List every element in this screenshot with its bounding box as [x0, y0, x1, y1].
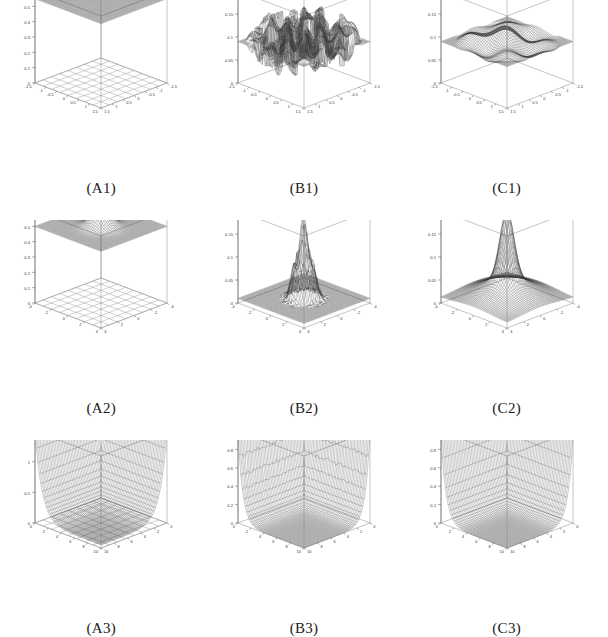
panel-caption-c2: (C2) — [492, 400, 521, 417]
svg-text:-1: -1 — [565, 88, 568, 93]
surface-plot-b1: 00.050.10.150.2-1.5-1-0.500.511.5-1.5-1-… — [203, 0, 406, 176]
panel-a2: 00.10.20.30.40.50.6-4-2024-4-2024 (A2) — [0, 220, 203, 440]
svg-text:-0.5: -0.5 — [149, 92, 156, 97]
panel-c3: 00.20.40.60.8102468100246810 (C3) — [405, 440, 608, 637]
svg-text:0.1: 0.1 — [430, 35, 436, 40]
svg-text:-0.5: -0.5 — [250, 92, 257, 97]
svg-text:10: 10 — [94, 549, 99, 554]
svg-text:2: 2 — [448, 529, 450, 534]
svg-text:0.5: 0.5 — [273, 100, 278, 105]
svg-text:4: 4 — [56, 534, 59, 539]
svg-text:2: 2 — [485, 322, 487, 327]
svg-text:0: 0 — [138, 96, 141, 101]
svg-text:2: 2 — [360, 529, 362, 534]
svg-text:0.4: 0.4 — [227, 484, 233, 489]
svg-text:-1.5: -1.5 — [431, 84, 438, 89]
svg-text:1.5: 1.5 — [498, 109, 503, 114]
surface-plot-c3: 00.20.40.60.8102468100246810 — [405, 440, 608, 616]
panel-caption-b1: (B1) — [290, 180, 319, 197]
svg-text:10: 10 — [296, 549, 301, 554]
svg-text:-1: -1 — [445, 88, 448, 93]
svg-text:4: 4 — [510, 329, 513, 334]
svg-text:0: 0 — [266, 96, 269, 101]
svg-text:8: 8 — [320, 544, 322, 549]
svg-text:0: 0 — [63, 316, 66, 321]
svg-text:0: 0 — [468, 96, 471, 101]
svg-text:4: 4 — [307, 329, 310, 334]
svg-text:0: 0 — [138, 316, 141, 321]
svg-text:1: 1 — [116, 104, 118, 109]
panel-caption-c1: (C1) — [492, 180, 521, 197]
panel-b3: 00.20.40.60.8102468100246810 (B3) — [203, 440, 406, 637]
svg-text:4: 4 — [299, 329, 302, 334]
svg-text:0.4: 0.4 — [25, 20, 31, 25]
svg-text:-0.5: -0.5 — [351, 92, 358, 97]
svg-text:-1.5: -1.5 — [576, 84, 583, 89]
svg-text:0: 0 — [435, 524, 438, 529]
svg-text:4: 4 — [462, 534, 465, 539]
svg-text:0: 0 — [373, 524, 376, 529]
svg-text:1: 1 — [28, 460, 31, 465]
svg-text:0.2: 0.2 — [227, 503, 233, 508]
svg-text:-4: -4 — [434, 304, 438, 309]
svg-text:1: 1 — [521, 104, 523, 109]
surface-plot-a2: 00.10.20.30.40.50.6-4-2024-4-2024 — [0, 220, 203, 396]
svg-text:0: 0 — [543, 316, 546, 321]
svg-text:0.8: 0.8 — [430, 448, 436, 453]
svg-text:1.5: 1.5 — [105, 109, 110, 114]
svg-text:4: 4 — [105, 329, 108, 334]
svg-text:0: 0 — [543, 96, 546, 101]
svg-text:-0.5: -0.5 — [554, 92, 561, 97]
svg-text:6: 6 — [272, 539, 274, 544]
svg-text:-1: -1 — [362, 88, 365, 93]
surface-plot-c1: 00.050.10.150.2-1.5-1-0.500.511.5-1.5-1-… — [405, 0, 608, 176]
svg-text:0.1: 0.1 — [25, 286, 31, 291]
svg-text:1: 1 — [318, 104, 320, 109]
svg-text:0.05: 0.05 — [225, 58, 234, 63]
svg-text:0.6: 0.6 — [430, 466, 436, 471]
svg-text:0.15: 0.15 — [428, 232, 437, 237]
surface-plot-c2: 00.050.10.150.2-4-2024-4-2024 — [405, 220, 608, 396]
panel-c1: 00.050.10.150.2-1.5-1-0.500.511.5-1.5-1-… — [405, 0, 608, 220]
svg-text:2: 2 — [157, 529, 159, 534]
panel-caption-a1: (A1) — [87, 180, 117, 197]
svg-text:0.5: 0.5 — [25, 491, 31, 496]
svg-text:0.2: 0.2 — [25, 51, 31, 56]
svg-text:-1.5: -1.5 — [171, 84, 178, 89]
panel-b2: 00.050.10.150.2-4-2024-4-2024 (B2) — [203, 220, 406, 440]
svg-text:0.4: 0.4 — [25, 240, 31, 245]
svg-text:6: 6 — [475, 539, 477, 544]
svg-text:6: 6 — [536, 539, 538, 544]
svg-text:2: 2 — [79, 322, 81, 327]
svg-text:10: 10 — [307, 549, 312, 554]
svg-text:1: 1 — [85, 104, 87, 109]
svg-text:0.3: 0.3 — [25, 255, 31, 260]
svg-text:0: 0 — [266, 316, 269, 321]
svg-text:-4: -4 — [231, 304, 235, 309]
panel-caption-b2: (B2) — [290, 400, 319, 417]
svg-text:10: 10 — [105, 549, 110, 554]
svg-text:0.5: 0.5 — [532, 100, 537, 105]
svg-text:2: 2 — [282, 322, 284, 327]
panel-c2: 00.050.10.150.2-4-2024-4-2024 (C2) — [405, 220, 608, 440]
svg-text:-1: -1 — [160, 88, 163, 93]
svg-text:6: 6 — [334, 539, 336, 544]
svg-text:2: 2 — [563, 529, 565, 534]
svg-text:0.1: 0.1 — [430, 255, 436, 260]
svg-text:-1: -1 — [40, 88, 43, 93]
svg-text:2: 2 — [246, 529, 248, 534]
svg-text:-0.5: -0.5 — [453, 92, 460, 97]
svg-text:0.15: 0.15 — [225, 12, 234, 17]
svg-text:-4: -4 — [29, 304, 33, 309]
svg-text:0.15: 0.15 — [225, 232, 234, 237]
svg-text:-0.5: -0.5 — [47, 92, 54, 97]
svg-text:0.5: 0.5 — [71, 100, 76, 105]
svg-text:0.05: 0.05 — [428, 278, 437, 283]
svg-text:-1: -1 — [242, 88, 245, 93]
svg-text:6: 6 — [70, 539, 72, 544]
svg-text:0: 0 — [576, 524, 579, 529]
svg-text:0.05: 0.05 — [428, 58, 437, 63]
surface-plot-b2: 00.050.10.150.2-4-2024-4-2024 — [203, 220, 406, 396]
svg-text:0: 0 — [30, 524, 33, 529]
svg-text:0.1: 0.1 — [227, 35, 233, 40]
